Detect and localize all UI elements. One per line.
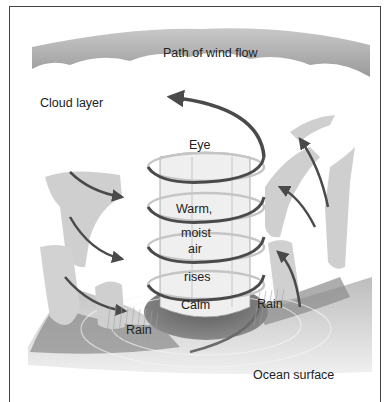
label-air: air (188, 243, 202, 256)
label-path-of-wind-flow: Path of wind flow (163, 47, 258, 60)
label-cloud-layer: Cloud layer (40, 97, 103, 110)
label-rain-right: Rain (257, 298, 283, 311)
label-calm: Calm (181, 299, 210, 312)
label-warm: Warm, (176, 203, 212, 216)
label-eye: Eye (189, 139, 211, 152)
label-ocean-surface: Ocean surface (253, 369, 334, 382)
wind-flow-arrow (170, 97, 264, 157)
label-rises: rises (184, 271, 210, 284)
label-moist: moist (181, 227, 211, 240)
label-rain-left: Rain (126, 324, 152, 337)
diagram-frame: Path of wind flow Cloud layer Eye Warm, … (9, 6, 381, 402)
